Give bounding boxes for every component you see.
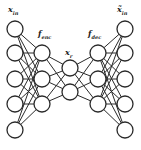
neuron-node bbox=[7, 71, 23, 87]
label-latent: xr bbox=[65, 48, 72, 59]
neuron-node bbox=[62, 84, 78, 100]
layer-encoder-hidden bbox=[34, 45, 50, 112]
neuron-node bbox=[117, 21, 133, 37]
autoencoder-network bbox=[0, 0, 141, 150]
layer-latent bbox=[62, 60, 78, 100]
neuron-node bbox=[117, 71, 133, 87]
neuron-node bbox=[90, 96, 106, 112]
neuron-node bbox=[90, 71, 106, 87]
neuron-node bbox=[7, 45, 23, 61]
neuron-node bbox=[7, 21, 23, 37]
neuron-node bbox=[62, 60, 78, 76]
label-decoder: fdec bbox=[88, 29, 101, 40]
neuron-node bbox=[117, 96, 133, 112]
neuron-node bbox=[7, 122, 23, 138]
layer-decoder-hidden bbox=[90, 45, 106, 112]
label-encoder: fenc bbox=[38, 29, 51, 40]
neuron-node bbox=[90, 45, 106, 61]
neuron-node bbox=[7, 96, 23, 112]
label-input: xin bbox=[8, 5, 18, 16]
neuron-node bbox=[34, 96, 50, 112]
neuron-node bbox=[34, 45, 50, 61]
connections bbox=[15, 29, 125, 130]
neuron-node bbox=[34, 71, 50, 87]
label-output: x̃in bbox=[117, 5, 127, 16]
neuron-node bbox=[117, 122, 133, 138]
neuron-node bbox=[117, 45, 133, 61]
